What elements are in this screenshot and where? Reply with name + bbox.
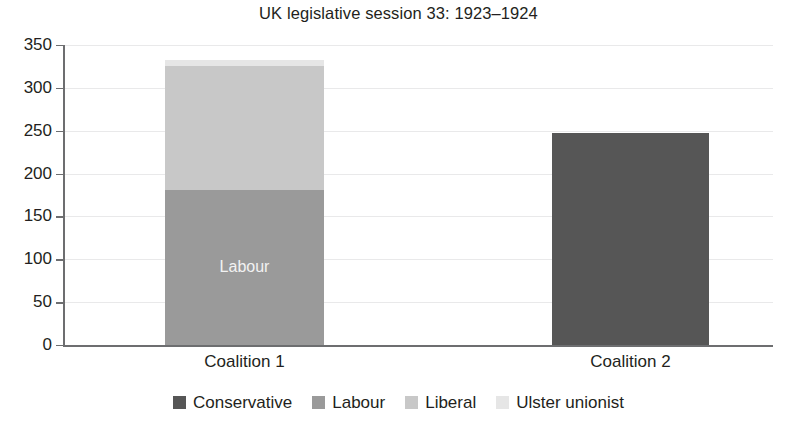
y-axis-tick-label: 0	[0, 335, 52, 355]
chart-legend: ConservativeLabourLiberalUlster unionist	[0, 394, 797, 411]
y-axis-tick-label: 350	[0, 35, 52, 55]
legend-swatch-icon	[312, 396, 325, 409]
bar-stack[interactable]	[552, 45, 709, 345]
y-axis-tick-label: 250	[0, 121, 52, 141]
y-axis-tick-label: 100	[0, 249, 52, 269]
y-axis-tick	[56, 88, 63, 89]
legend-swatch-icon	[496, 396, 509, 409]
legend-swatch-icon	[405, 396, 418, 409]
bar-segment[interactable]	[165, 60, 324, 67]
bar-segment-label: Labour	[165, 258, 324, 276]
x-axis-category-label: Coalition 2	[552, 352, 709, 372]
legend-item-label: Ulster unionist	[516, 394, 624, 411]
legend-item-label: Conservative	[193, 394, 292, 411]
y-axis-tick	[56, 259, 63, 260]
y-axis-tick	[56, 174, 63, 175]
legend-item-label: Liberal	[425, 394, 476, 411]
bar-segment[interactable]	[552, 133, 709, 345]
y-axis-labels: 050100150200250300350	[0, 45, 52, 345]
bar-segment[interactable]: Labour	[165, 190, 324, 345]
y-axis-line	[63, 45, 65, 345]
legend-item[interactable]: Conservative	[173, 394, 292, 411]
legend-item[interactable]: Ulster unionist	[496, 394, 624, 411]
y-axis-tick-label: 150	[0, 206, 52, 226]
legend-item[interactable]: Liberal	[405, 394, 476, 411]
bar-stack[interactable]: Labour	[165, 45, 324, 345]
x-axis-category-label: Coalition 1	[165, 352, 324, 372]
chart-title: UK legislative session 33: 1923–1924	[0, 4, 797, 23]
y-axis-tick	[56, 345, 63, 346]
legend-item[interactable]: Labour	[312, 394, 385, 411]
y-axis-tick	[56, 45, 63, 46]
y-axis-tick	[56, 131, 63, 132]
bar-segment[interactable]	[165, 66, 324, 189]
y-axis-tick-label: 200	[0, 164, 52, 184]
legend-item-label: Labour	[332, 394, 385, 411]
chart-container: UK legislative session 33: 1923–1924 050…	[0, 0, 797, 422]
y-axis-tick-label: 50	[0, 292, 52, 312]
y-axis-tick	[56, 216, 63, 217]
y-axis-tick	[56, 302, 63, 303]
legend-swatch-icon	[173, 396, 186, 409]
y-axis-tick-label: 300	[0, 78, 52, 98]
x-axis-line	[63, 345, 773, 347]
plot-area: Labour	[63, 45, 773, 345]
